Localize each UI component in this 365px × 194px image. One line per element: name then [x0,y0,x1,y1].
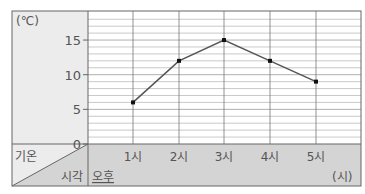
y-axis-title: 기온 [15,150,37,164]
x-tick-label: 1시 [124,150,143,164]
data-point [131,100,135,104]
x-tick-label: 5시 [307,150,326,164]
y-tick-label: 0 [73,137,81,152]
x-tick-label: 3시 [215,150,234,164]
y-tick-label: 15 [64,33,81,48]
x-unit-label: (시) [332,170,352,184]
data-points [131,38,318,104]
y-tick-label: 5 [73,102,81,117]
data-point [177,59,181,63]
data-point [314,80,318,84]
x-tick-label: 4시 [261,150,280,164]
x-axis-title: 시각 [61,170,83,184]
horizontal-gridlines [83,19,361,144]
unit-label: (℃) [16,14,39,28]
data-point [268,59,272,63]
x-prefix-label: 오후 [92,170,114,184]
data-point [222,38,226,42]
line-chart: (℃) 151050 1시2시3시4시5시 기온 시각 오후 (시) [0,0,365,194]
y-tick-label: 10 [64,68,81,83]
x-tick-label: 2시 [170,150,189,164]
temperature-line [133,40,316,102]
